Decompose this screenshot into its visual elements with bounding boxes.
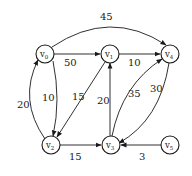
node-v5: v5 xyxy=(161,136,179,154)
edge-weight-v2-v0: 20 xyxy=(17,99,30,110)
node-v4: v4 xyxy=(161,45,179,63)
edge-weight-v0-v2: 10 xyxy=(42,92,55,103)
node-v1: v1 xyxy=(101,45,119,63)
edge-weight-v1-v4: 10 xyxy=(128,57,141,68)
edge-v0-v4 xyxy=(52,27,166,47)
edge-weight-v0-v4: 45 xyxy=(100,11,113,22)
node-v3: v3 xyxy=(102,136,120,154)
graph-diagram: 45 50 10 10 20 15 20 35 30 15 3 v0 v1 v4… xyxy=(0,0,192,176)
edge-weight-v5-v3: 3 xyxy=(139,151,145,162)
edge-weight-v1-v2: 15 xyxy=(72,91,85,102)
node-v0: v0 xyxy=(36,45,54,63)
edge-weight-v0-v1: 50 xyxy=(64,57,77,68)
edge-weight-v2-v3: 15 xyxy=(69,151,82,162)
edge-weight-v4-v3: 30 xyxy=(150,83,163,94)
edge-v4-v3 xyxy=(119,63,169,143)
edge-weight-v3-v1: 20 xyxy=(97,95,110,106)
node-v2: v2 xyxy=(42,136,60,154)
edge-weight-v3-v4: 35 xyxy=(128,88,141,99)
